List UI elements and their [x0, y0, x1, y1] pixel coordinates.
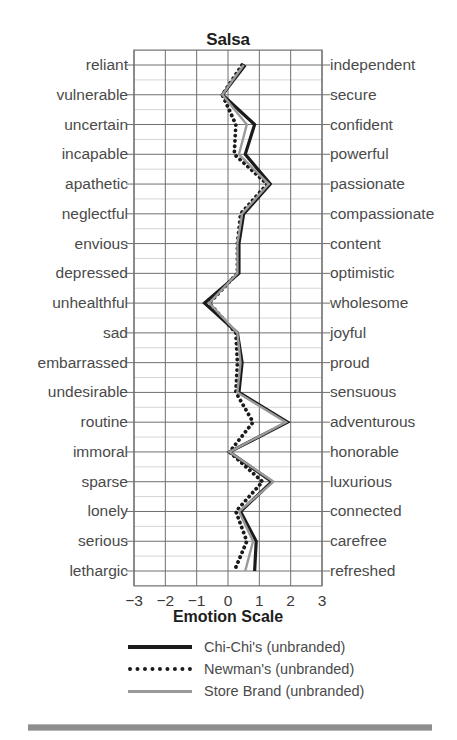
left-label-serious: serious: [78, 533, 128, 549]
right-label-compassionate: compassionate: [330, 206, 434, 222]
left-label-reliant: reliant: [86, 57, 128, 73]
x-tick-1: 1: [247, 593, 271, 609]
footer-divider: [28, 724, 432, 731]
x-axis-title: Emotion Scale: [134, 608, 322, 626]
salsa-emotion-scale-chart: Salsa reliantvulnerableuncertainincapabl…: [0, 0, 457, 740]
right-label-confident: confident: [330, 117, 393, 133]
legend-label: Newman's (unbranded): [204, 661, 354, 677]
right-label-connected: connected: [330, 503, 402, 519]
left-label-uncertain: uncertain: [64, 117, 128, 133]
x-tick-3: 3: [310, 593, 334, 609]
right-label-honorable: honorable: [330, 444, 399, 460]
right-label-proud: proud: [330, 355, 370, 371]
legend-key-icon-solid-black: [128, 641, 192, 653]
legend-label: Chi-Chi's (unbranded): [204, 639, 345, 655]
right-label-independent: independent: [330, 57, 415, 73]
right-label-adventurous: adventurous: [330, 414, 415, 430]
x-tick-2: 2: [279, 593, 303, 609]
right-label-content: content: [330, 236, 381, 252]
left-label-sparse: sparse: [81, 474, 128, 490]
right-label-refreshed: refreshed: [330, 563, 395, 579]
left-label-undesirable: undesirable: [48, 384, 128, 400]
legend-item-1: Newman's (unbranded): [128, 658, 457, 680]
right-label-sensuous: sensuous: [330, 384, 396, 400]
legend-key-icon-dotted-black: [128, 663, 192, 675]
left-label-apathetic: apathetic: [65, 176, 128, 192]
right-label-luxurious: luxurious: [330, 474, 392, 490]
right-label-wholesome: wholesome: [330, 295, 408, 311]
left-label-unhealthful: unhealthful: [52, 295, 128, 311]
x-tick--3: −3: [122, 593, 146, 609]
left-label-neglectful: neglectful: [62, 206, 128, 222]
x-tick-0: 0: [216, 593, 240, 609]
left-label-embarrassed: embarrassed: [38, 355, 128, 371]
right-label-passionate: passionate: [330, 176, 405, 192]
left-label-vulnerable: vulnerable: [56, 87, 128, 103]
left-label-envious: envious: [75, 236, 128, 252]
right-label-optimistic: optimistic: [330, 265, 395, 281]
left-label-lonely: lonely: [88, 503, 129, 519]
x-tick--2: −2: [153, 593, 177, 609]
right-label-powerful: powerful: [330, 146, 389, 162]
left-label-sad: sad: [103, 325, 128, 341]
right-label-joyful: joyful: [330, 325, 366, 341]
grid-lines: [126, 50, 330, 586]
left-label-lethargic: lethargic: [69, 563, 128, 579]
legend-key-icon-solid-gray: [128, 685, 192, 697]
chart-legend: Chi-Chi's (unbranded)Newman's (unbranded…: [128, 636, 457, 702]
legend-item-2: Store Brand (unbranded): [128, 680, 457, 702]
legend-item-0: Chi-Chi's (unbranded): [128, 636, 457, 658]
right-label-secure: secure: [330, 87, 377, 103]
right-label-carefree: carefree: [330, 533, 387, 549]
left-label-depressed: depressed: [56, 265, 128, 281]
left-label-routine: routine: [81, 414, 128, 430]
left-label-immoral: immoral: [73, 444, 128, 460]
left-label-incapable: incapable: [62, 146, 128, 162]
legend-label: Store Brand (unbranded): [204, 683, 364, 699]
x-tick--1: −1: [185, 593, 209, 609]
